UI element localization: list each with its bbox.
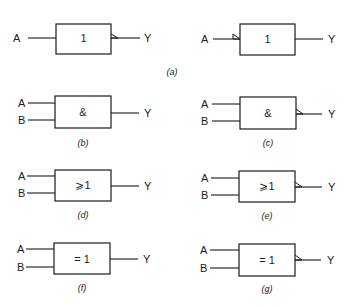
input-label-b: B [200,262,207,274]
output-label-y: Y [144,32,152,44]
gate-symbol: ⩾1 [259,180,274,192]
gate-symbol: = 1 [259,254,275,266]
input-label-b: B [201,115,208,127]
gate-b-and: A B & Y (b) [18,96,152,148]
output-label-y: Y [328,181,336,193]
input-label-b: B [18,187,25,199]
caption-a: (a) [167,67,178,77]
input-label-b: B [18,114,25,126]
gate-symbol: & [264,107,272,119]
input-label-a: A [200,244,208,256]
caption-c: (c) [263,138,274,148]
gate-g-xnor: A B = 1 Y (g) [200,244,335,294]
output-negation-icon [295,255,302,260]
gate-symbol: 1 [80,32,86,44]
output-label-y: Y [144,107,152,119]
input-label-a: A [18,97,26,109]
input-label-a: A [13,32,21,44]
gate-symbol: & [79,106,87,118]
input-label-a: A [201,98,209,110]
gate-d-or: A B ⩾1 Y (d) [18,170,152,220]
input-label-a: A [17,243,25,255]
gate-symbol: ⩾1 [75,179,90,191]
output-label-y: Y [328,33,336,45]
gate-symbol: = 1 [74,253,90,265]
output-negation-icon [111,34,118,38]
gate-e-nor: A B ⩾1 Y (e) [201,171,336,221]
gate-f-xor: A B = 1 Y (f) [17,243,151,293]
input-label-a: A [201,172,209,184]
caption-b: (b) [78,138,89,148]
output-negation-icon [295,182,302,187]
output-label-y: Y [144,180,152,192]
input-label-a: A [18,170,26,182]
logic-gate-symbols-diagram: A 1 Y A 1 Y (a) A B & Y (b) A B & [0,0,350,306]
caption-g: (g) [262,284,273,294]
gate-a-not-output-negated: A 1 Y [13,24,152,54]
caption-f: (f) [78,283,87,293]
output-negation-icon [296,109,303,114]
caption-d: (d) [78,210,89,220]
gate-a-not-input-negated: A 1 Y [201,24,336,55]
input-label-a: A [201,33,209,45]
caption-e: (e) [262,211,273,221]
gate-c-nand: A B & Y (c) [201,97,336,148]
input-label-b: B [17,261,24,273]
output-label-y: Y [327,254,335,266]
output-label-y: Y [328,108,336,120]
gate-symbol: 1 [264,33,270,45]
input-label-b: B [201,189,208,201]
input-negation-icon [233,34,240,39]
output-label-y: Y [143,253,151,265]
